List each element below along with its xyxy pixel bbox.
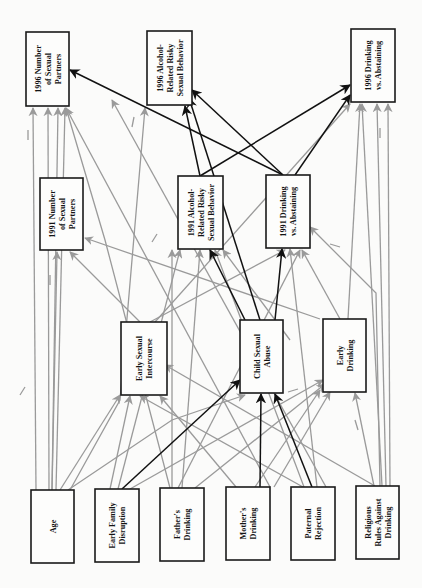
negative-sign-mark [152, 234, 157, 242]
box-label: 1996 Alcohol-Related RiskySexual Behavio… [156, 39, 185, 96]
variable-box-rrd: ReligiousRules AgainstDrinking [356, 486, 399, 559]
control-path-arrow [302, 250, 340, 319]
variable-box-edr: EarlyDrinking [323, 319, 366, 392]
box-label: 1991 Drinkingvs. Abstaining [279, 185, 298, 236]
control-path-arrow [66, 108, 270, 487]
variable-box-n1991alc: 1991 Alcohol-Related RiskySexual Behavio… [178, 176, 223, 249]
variable-box-n1991drk: 1991 Drinkingvs. Abstaining [266, 175, 310, 248]
box-label: Mother'sDrinking [239, 507, 258, 540]
variable-box-esi: Early SexualIntercourse [121, 322, 167, 395]
control-path-arrow [33, 108, 36, 490]
box-outline [351, 29, 395, 102]
significant-path-arrow [295, 95, 350, 175]
significant-path-arrow [122, 380, 240, 489]
variable-box-n1996drk: 1996 Drinkingvs. Abstaining [351, 29, 395, 102]
box-label: Age [49, 519, 58, 533]
variable-box-n1996num: 1996 Numberof SexualPartners [26, 32, 69, 106]
significant-path-arrow [185, 106, 200, 176]
control-path-arrow [348, 104, 360, 319]
control-path-arrow [355, 393, 374, 486]
control-path-arrow [70, 108, 145, 490]
significant-path-arrow [200, 85, 350, 176]
significant-path-arrow [192, 90, 283, 175]
negative-sign-mark [355, 420, 358, 430]
box-label: 1991 Alcohol-Related RiskySexual Behavio… [187, 184, 216, 241]
box-label: Early SexualIntercourse [135, 335, 154, 381]
box-outline [323, 319, 366, 392]
variable-box-age: Age [31, 490, 74, 563]
path-diagram: 1996 Numberof SexualPartners1996 Alcohol… [0, 0, 422, 588]
variable-box-efd: Early FamilyDisruption [95, 489, 139, 562]
box-outline [226, 487, 270, 560]
control-path-arrow [274, 392, 330, 487]
box-outline [266, 175, 310, 248]
control-path-arrow [290, 249, 317, 487]
variable-box-n1991num: 1991 Numberof SexualPartners [40, 178, 83, 250]
negative-sign-mark [288, 389, 298, 392]
negative-sign-mark [330, 244, 340, 247]
control-paths [33, 100, 390, 490]
control-path-arrow [388, 104, 390, 486]
control-path-arrow [130, 380, 323, 489]
significant-path-arrow [260, 394, 261, 487]
significant-path-arrow [275, 249, 282, 320]
box-label: Father'sDrinking [173, 508, 192, 541]
significant-path-arrow [275, 394, 312, 487]
negative-sign-mark [132, 117, 134, 127]
variable-box-prj: PaternalRejection [291, 487, 335, 560]
variable-box-mdr: Mother'sDrinking [226, 487, 270, 560]
box-outline [95, 489, 139, 562]
box-label: PaternalRejection [304, 506, 323, 540]
box-outline [121, 322, 167, 395]
control-path-arrow [48, 108, 49, 490]
control-path-arrow [112, 100, 326, 487]
control-path-arrow [182, 250, 200, 488]
box-outline [240, 320, 283, 393]
box-outline [160, 488, 204, 561]
variable-box-csa: Child SexualAbuse [240, 320, 283, 393]
control-path-arrow [110, 396, 130, 489]
control-path-arrow [140, 396, 303, 487]
box-outline [291, 487, 335, 560]
negative-sign-mark [20, 387, 25, 395]
variable-box-fdr: Father'sDrinking [160, 488, 204, 561]
variable-box-n1996alc: 1996 Alcohol-Related RiskySexual Behavio… [147, 31, 192, 105]
control-path-arrow [66, 108, 170, 488]
box-label: 1996 Drinkingvs. Abstaining [364, 39, 383, 90]
control-path-arrow [255, 390, 320, 487]
box-label: Early FamilyDisruption [108, 502, 127, 549]
